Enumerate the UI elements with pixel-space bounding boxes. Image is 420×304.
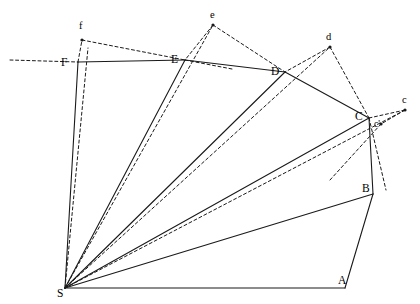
dashed-d-D	[285, 47, 330, 72]
edge-E-F	[78, 60, 185, 62]
point-marker-e	[211, 23, 214, 26]
dashed-S-e	[65, 25, 213, 288]
vertex-label-B: B	[362, 183, 370, 195]
geometry-figure: SABCDEFcc'def	[0, 0, 420, 304]
solid-polygon-lines	[65, 60, 373, 288]
vertex-label-E: E	[171, 54, 178, 66]
ray-S-D	[65, 72, 285, 288]
ray-S-E	[65, 60, 185, 288]
vertex-label-C: C	[355, 111, 363, 123]
vertex-label-c: c	[402, 95, 407, 106]
dashed-construction-lines	[10, 25, 405, 288]
ray-S-C	[65, 118, 369, 288]
ray-S-B	[65, 194, 373, 288]
diagram-canvas	[0, 0, 420, 304]
vertex-label-e: e	[210, 10, 215, 21]
edge-A-B	[345, 194, 373, 288]
point-marker-d	[328, 45, 331, 48]
dashed-S-c	[65, 110, 405, 288]
dashed-cp-down	[330, 124, 381, 180]
dashed-c-cp	[381, 110, 405, 124]
vertex-label-f: f	[79, 21, 83, 32]
vertex-label-c-prime: c'	[374, 120, 380, 130]
point-marker-c	[403, 108, 406, 111]
dashed-S-d	[65, 47, 330, 288]
dashed-F-f	[78, 40, 82, 62]
dashed-e-E	[185, 25, 213, 60]
vertex-label-d: d	[326, 32, 331, 43]
dashed-f-E	[82, 40, 185, 60]
point-marker-f	[80, 38, 83, 41]
vertex-label-F: F	[61, 57, 67, 69]
vertex-label-A: A	[338, 275, 346, 287]
vertex-label-S: S	[57, 288, 63, 300]
dashed-extension-left	[10, 60, 78, 62]
vertex-label-D: D	[271, 66, 279, 78]
dashed-C-c	[369, 110, 405, 118]
